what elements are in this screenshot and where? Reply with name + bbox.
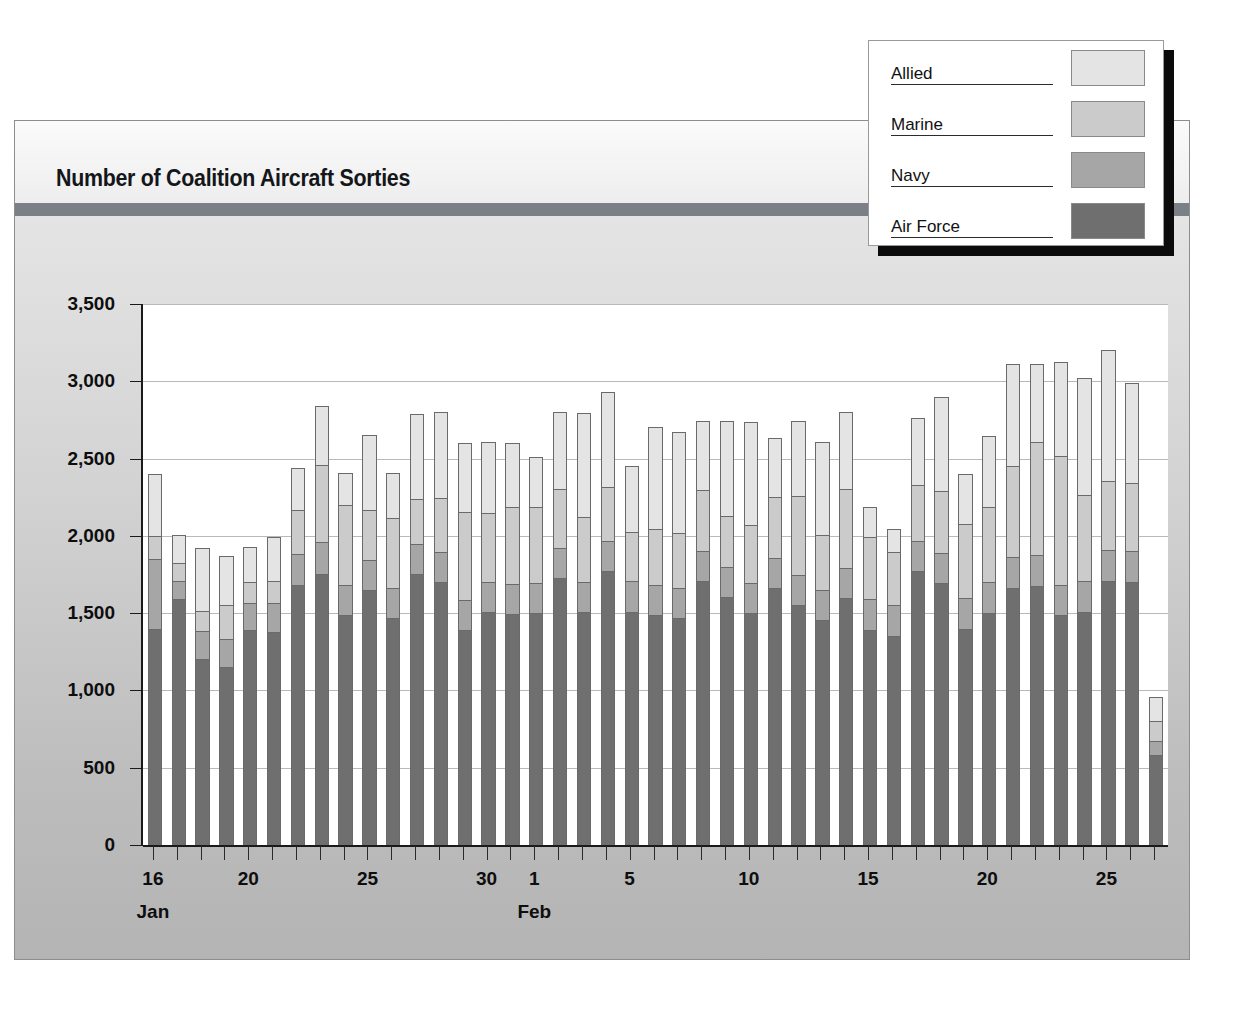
bar-segment-marine xyxy=(195,611,209,631)
legend-item-navy[interactable]: Navy xyxy=(869,144,1163,195)
y-axis-tick xyxy=(130,536,143,537)
bar-segment-marine xyxy=(243,582,257,603)
x-axis-tick xyxy=(701,846,702,860)
bar-segment-air-force xyxy=(648,615,662,845)
x-axis-tick xyxy=(1083,846,1084,860)
x-axis-tick xyxy=(797,846,798,860)
bar-stack xyxy=(911,418,925,845)
bar-segment-air-force xyxy=(1006,588,1020,845)
bar-segment-navy xyxy=(839,568,853,598)
x-axis-tick xyxy=(1059,846,1060,860)
bar-segment-marine xyxy=(982,507,996,583)
bar-segment-air-force xyxy=(839,598,853,845)
bar-stack xyxy=(315,406,329,845)
bar-segment-air-force xyxy=(696,581,710,845)
bar-segment-allied xyxy=(744,422,758,525)
bar-segment-marine xyxy=(315,465,329,542)
bar-segment-navy xyxy=(1101,550,1115,581)
bar-segment-allied xyxy=(1125,383,1139,483)
y-axis-label: 2,500 xyxy=(67,448,115,470)
x-axis-tick xyxy=(630,846,631,860)
bar-segment-navy xyxy=(1054,585,1068,615)
bar-segment-navy xyxy=(1149,741,1163,755)
y-axis-tick xyxy=(130,459,143,460)
bar-segment-air-force xyxy=(934,583,948,845)
bar-stack xyxy=(672,432,686,845)
bar-segment-navy xyxy=(315,542,329,574)
bar-segment-marine xyxy=(553,489,567,549)
y-axis-label: 3,000 xyxy=(67,370,115,392)
bar-segment-navy xyxy=(648,585,662,615)
bar-segment-air-force xyxy=(243,630,257,845)
bar-segment-allied xyxy=(696,421,710,491)
bar-segment-air-force xyxy=(434,582,448,845)
bar-segment-allied xyxy=(172,535,186,563)
x-axis-tick xyxy=(415,846,416,860)
x-axis-tick xyxy=(749,846,750,860)
bar-segment-marine xyxy=(529,507,543,584)
bar-segment-allied xyxy=(720,421,734,516)
legend-item-allied[interactable]: Allied xyxy=(869,42,1163,93)
bar-stack xyxy=(982,436,996,845)
bar-segment-allied xyxy=(577,413,591,517)
bar-segment-marine xyxy=(577,517,591,583)
bar-segment-navy xyxy=(911,541,925,571)
legend-item-marine[interactable]: Marine xyxy=(869,93,1163,144)
bar-segment-navy xyxy=(553,548,567,577)
bar-stack xyxy=(625,466,639,845)
bar-segment-marine xyxy=(815,535,829,590)
x-axis-tick xyxy=(916,846,917,860)
legend-item-air-force[interactable]: Air Force xyxy=(869,195,1163,246)
bar-stack xyxy=(267,537,281,845)
bar-segment-air-force xyxy=(505,614,519,845)
bar-segment-allied xyxy=(601,392,615,487)
x-axis-tick xyxy=(534,846,535,860)
bar-segment-allied xyxy=(148,474,162,536)
bar-segment-air-force xyxy=(1077,612,1091,845)
legend-leader-line xyxy=(891,237,1053,238)
y-axis-label: 2,000 xyxy=(67,525,115,547)
page-title: Number of Coalition Aircraft Sorties xyxy=(56,165,410,192)
x-axis-tick xyxy=(224,846,225,860)
legend-swatch xyxy=(1071,50,1145,86)
bar-stack xyxy=(148,474,162,845)
x-axis-tick xyxy=(439,846,440,860)
x-axis-tick xyxy=(820,846,821,860)
x-axis-label: 25 xyxy=(1096,868,1117,890)
bar-stack xyxy=(1149,697,1163,845)
bar-segment-air-force xyxy=(768,588,782,845)
bar-stack xyxy=(172,535,186,845)
bar-segment-air-force xyxy=(887,636,901,845)
bar-segment-navy xyxy=(505,584,519,614)
bar-segment-air-force xyxy=(958,629,972,845)
bar-stack xyxy=(1077,378,1091,845)
bar-stack xyxy=(219,556,233,845)
bar-segment-marine xyxy=(720,516,734,567)
bar-segment-navy xyxy=(267,603,281,632)
bar-stack xyxy=(863,507,877,845)
bar-segment-navy xyxy=(195,631,209,659)
bar-segment-air-force xyxy=(1101,581,1115,845)
bar-segment-air-force xyxy=(267,632,281,845)
bar-segment-allied xyxy=(243,547,257,583)
bar-segment-navy xyxy=(291,554,305,585)
bar-segment-navy xyxy=(1125,551,1139,582)
bar-segment-navy xyxy=(386,588,400,618)
bar-segment-marine xyxy=(148,536,162,559)
bar-segment-navy xyxy=(481,582,495,612)
x-axis-tick xyxy=(153,846,154,860)
bar-segment-navy xyxy=(148,559,162,629)
x-axis-tick xyxy=(248,846,249,860)
x-axis-tick xyxy=(963,846,964,860)
bar-segment-allied xyxy=(315,406,329,465)
bar-segment-allied xyxy=(195,548,209,611)
bar-segment-navy xyxy=(1077,581,1091,612)
y-axis-tick xyxy=(130,768,143,769)
y-axis-tick xyxy=(130,690,143,691)
bar-segment-allied xyxy=(815,442,829,536)
bar-segment-navy xyxy=(863,599,877,630)
bar-segment-air-force xyxy=(672,618,686,845)
bar-segment-marine xyxy=(362,510,376,559)
bar-segment-marine xyxy=(744,525,758,583)
bar-segment-marine xyxy=(791,496,805,575)
